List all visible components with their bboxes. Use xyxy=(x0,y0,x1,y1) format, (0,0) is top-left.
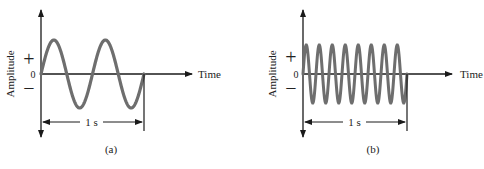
plus-sign: + xyxy=(23,48,34,70)
amplitude-label: Amplitude xyxy=(4,50,16,97)
minus-sign: − xyxy=(23,77,34,99)
amplitude-label: Amplitude xyxy=(266,50,278,97)
plus-sign: + xyxy=(285,46,296,68)
time-label: Time xyxy=(460,68,483,80)
panel-a: 1 s Amplitude + 0 − Time (a) xyxy=(4,10,221,156)
panel-b: 1 s Amplitude + 0 − Time (b) xyxy=(266,10,483,156)
panel-caption: (a) xyxy=(105,143,118,156)
minus-sign: − xyxy=(285,77,296,99)
panel-caption: (b) xyxy=(367,143,380,156)
duration-label: 1 s xyxy=(85,116,98,128)
sine-wave-frequency-diagram: 1 s Amplitude + 0 − Time (a) 1 s Amplitu… xyxy=(0,0,484,169)
time-label: Time xyxy=(198,68,221,80)
duration-label: 1 s xyxy=(348,116,361,128)
